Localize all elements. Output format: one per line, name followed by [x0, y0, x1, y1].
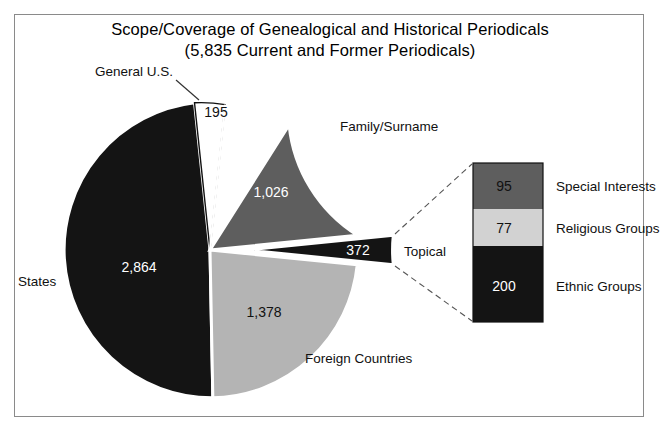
- label-general-us: General U.S.: [95, 64, 173, 79]
- value-special-interests: 95: [496, 178, 512, 194]
- chart-artwork: 2,864 1,026 1,378 195 372 95 77 200 Gene…: [0, 0, 660, 435]
- label-foreign-countries: Foreign Countries: [305, 351, 413, 366]
- value-foreign-countries: 1,378: [246, 304, 281, 320]
- chart-page: Scope/Coverage of Genealogical and Histo…: [0, 0, 660, 435]
- value-family-surname: 1,026: [253, 184, 288, 200]
- value-ethnic-groups: 200: [492, 278, 516, 294]
- connector-line-top: [395, 164, 472, 234]
- label-states: States: [18, 274, 57, 289]
- label-topical: Topical: [404, 244, 446, 259]
- label-special-interests: Special Interests: [556, 179, 656, 194]
- leader-line-general-us: [176, 80, 199, 100]
- pie-slice-foreign-countries[interactable]: [210, 250, 357, 398]
- value-general-us: 195: [204, 104, 228, 120]
- label-religious-groups: Religious Groups: [556, 221, 660, 236]
- value-topical: 372: [346, 242, 370, 258]
- label-family-surname: Family/Surname: [340, 119, 438, 134]
- connector-line-bottom: [395, 266, 472, 321]
- label-ethnic-groups: Ethnic Groups: [556, 279, 642, 294]
- value-states: 2,864: [121, 259, 156, 275]
- pie-slice-states[interactable]: [64, 103, 213, 398]
- value-religious-groups: 77: [496, 220, 512, 236]
